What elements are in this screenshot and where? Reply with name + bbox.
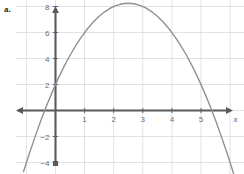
x-axis-label: x (233, 114, 238, 124)
y-tick-label: 8 (45, 3, 50, 12)
figure-container: a. 12345 8642−2−4 x y f(x) (0, 0, 244, 174)
y-tick-label: 4 (45, 55, 50, 64)
x-axis-arrow-right-icon (226, 107, 233, 114)
x-tick-label: 3 (141, 115, 146, 124)
x-axis-arrow-left-icon (16, 107, 23, 114)
x-tick-label: 1 (82, 115, 87, 124)
coordinate-plane-graph: 12345 8642−2−4 x y f(x) (0, 0, 244, 174)
y-tick-label: 2 (45, 81, 50, 90)
y-tick-label: −4 (40, 159, 50, 168)
x-tick-label: 5 (199, 115, 204, 124)
y-axis-arrow-up-icon (52, 6, 59, 13)
x-axis-tick-labels: 12345 (82, 115, 203, 124)
grid-lines (16, 0, 244, 174)
y-axis-tick-labels: 8642−2−4 (40, 3, 50, 168)
y-tick-label: 6 (45, 29, 50, 38)
x-tick-label: 2 (111, 115, 116, 124)
y-tick-label: −2 (40, 133, 50, 142)
x-tick-label: 4 (170, 115, 175, 124)
y-axis-arrow-down-icon (53, 161, 58, 166)
